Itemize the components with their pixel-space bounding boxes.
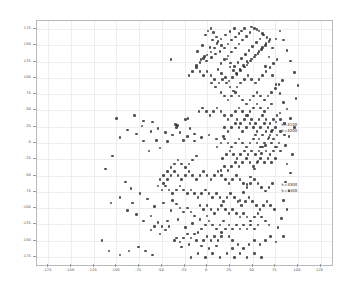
data-point [220, 91, 223, 94]
data-point [179, 185, 182, 188]
data-point [255, 204, 258, 207]
data-point [166, 140, 169, 143]
data-point [151, 254, 154, 257]
data-point [234, 161, 237, 164]
data-point [275, 38, 278, 41]
data-point [263, 161, 266, 164]
data-point [267, 107, 270, 110]
x-tick-mark [93, 264, 94, 267]
data-point [247, 74, 250, 77]
data-point [142, 220, 145, 223]
data-point [213, 235, 216, 238]
data-point [282, 235, 285, 238]
x-tick-label: -100 [111, 268, 120, 272]
data-point [164, 185, 167, 188]
plot-annotation: k=3100k=3200 [282, 122, 298, 133]
y-tick-label: -75 [10, 189, 31, 193]
data-point [188, 243, 191, 246]
gridline-horizontal [37, 257, 332, 258]
data-point [170, 209, 173, 212]
data-point [119, 196, 122, 199]
y-tick-label: 25 [10, 124, 31, 128]
data-point [249, 161, 252, 164]
data-point [288, 135, 291, 138]
data-point [108, 250, 111, 253]
data-point [268, 224, 271, 227]
data-point [224, 228, 227, 231]
data-point [265, 130, 268, 133]
data-point [249, 122, 252, 125]
data-point [234, 91, 237, 94]
data-point [162, 174, 165, 177]
data-point [187, 117, 190, 120]
data-point [231, 178, 234, 181]
data-point [235, 224, 238, 227]
data-point [239, 178, 242, 181]
x-tick-label: -25 [180, 268, 186, 272]
data-point [245, 157, 248, 160]
data-point [213, 78, 216, 81]
data-point [276, 58, 279, 61]
data-point [193, 133, 196, 136]
data-point [214, 86, 217, 89]
data-point [170, 166, 173, 169]
data-point [266, 200, 269, 203]
gridline-horizontal [37, 29, 332, 30]
data-point [234, 47, 237, 50]
data-point [202, 57, 205, 60]
data-point [256, 91, 259, 94]
data-point [269, 66, 272, 69]
data-point [257, 160, 260, 163]
y-tick-label: -150 [10, 238, 31, 242]
data-point [204, 189, 207, 192]
data-point [256, 103, 259, 106]
gridline-horizontal [37, 45, 332, 46]
data-point [213, 47, 216, 50]
data-point [202, 170, 205, 173]
y-tick-label: -100 [10, 205, 31, 209]
x-tick-mark [115, 264, 116, 267]
data-point [173, 163, 176, 166]
data-point [279, 118, 282, 121]
y-tick-mark [33, 240, 36, 241]
data-point [246, 186, 249, 189]
data-point [239, 122, 242, 125]
x-tick-label: -150 [66, 268, 75, 272]
data-point [166, 170, 169, 173]
data-point [260, 186, 263, 189]
data-point [200, 136, 203, 139]
data-point [229, 192, 232, 195]
data-point [199, 70, 202, 73]
data-point [240, 57, 243, 60]
data-point [150, 215, 153, 218]
data-point [200, 192, 203, 195]
data-point [135, 213, 138, 216]
data-point [208, 220, 211, 223]
data-point [231, 228, 234, 231]
data-point [223, 95, 226, 98]
data-point [216, 146, 219, 149]
data-point [271, 47, 274, 50]
data-point [188, 170, 191, 173]
gridline-horizontal [37, 159, 332, 160]
data-point [242, 191, 245, 194]
data-point [210, 208, 213, 211]
data-point [173, 170, 176, 173]
x-tick-mark [138, 264, 139, 267]
data-point [227, 130, 230, 133]
data-point [265, 118, 268, 121]
data-point [193, 192, 196, 195]
data-point [191, 174, 194, 177]
data-point [286, 49, 289, 52]
data-point [235, 72, 238, 75]
data-point [195, 66, 198, 69]
x-tick-label: 0 [205, 268, 207, 272]
data-point [238, 107, 241, 110]
data-point [210, 27, 213, 30]
y-tick-mark [33, 109, 36, 110]
data-point [238, 126, 241, 129]
x-tick-mark [274, 264, 275, 267]
data-point [224, 208, 227, 211]
data-point [200, 245, 203, 248]
x-tick-label: 50 [249, 268, 254, 272]
